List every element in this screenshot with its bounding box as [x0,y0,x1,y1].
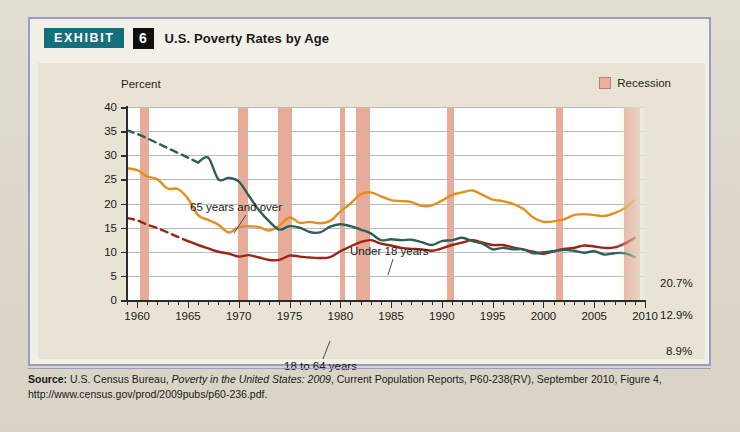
x-tick-mark-minor [269,302,270,305]
x-tick-mark-major [290,302,291,308]
x-tick-label: 1970 [226,310,252,322]
y-tick-mark [121,131,126,133]
y-tick-mark [121,179,126,181]
x-tick-mark-minor [584,302,585,305]
x-tick-mark-minor [371,302,372,305]
x-tick-label: 1965 [175,310,201,322]
exhibit-header: EXHIBIT 6 U.S. Poverty Rates by Age [30,19,709,57]
end-value-65-years-and-over: 8.9% [666,345,692,357]
end-value-under-18-years: 20.7% [660,277,693,289]
source-publication-title: Poverty in the United States: 2009 [172,373,331,385]
leader-line [323,341,330,359]
x-tick-mark-minor [168,302,169,305]
x-tick-mark-major [645,302,646,308]
y-tick-label: 5 [111,270,117,282]
x-tick-mark-minor [574,302,575,305]
x-tick-mark-major [442,302,443,308]
x-tick-mark-major [188,302,189,308]
series-label-65-years-and-over: 65 years and over [190,201,282,213]
x-tick-mark-minor [533,302,534,305]
x-tick-label: 1995 [480,310,506,322]
x-tick-mark-minor [218,302,219,305]
x-tick-mark-minor [564,302,565,305]
x-tick-mark-minor [361,302,362,305]
x-tick-mark-minor [513,302,514,305]
x-tick-label: 1980 [327,310,353,322]
x-tick-mark-major [391,302,392,308]
source-label: Source: [28,373,67,385]
x-tick-mark-minor [147,302,148,305]
y-axis-title: Percent [121,78,161,90]
end-value-18-to-64-years: 12.9% [660,309,693,321]
x-tick-mark-minor [482,302,483,305]
x-tick-mark-minor [381,302,382,305]
exhibit-badge: EXHIBIT [44,28,124,49]
y-tick-label: 35 [104,125,117,137]
exhibit-number: 6 [133,28,154,49]
x-tick-mark-minor [198,302,199,305]
x-axis-line [126,300,646,302]
x-tick-label: 1990 [429,310,455,322]
x-tick-mark-minor [401,302,402,305]
page-background: EXHIBIT 6 U.S. Poverty Rates by Age Perc… [0,0,740,432]
x-tick-label: 2005 [581,310,607,322]
y-tick-label: 30 [104,149,117,161]
x-tick-mark-minor [503,302,504,305]
legend-item-recession: Recession [617,77,671,89]
y-tick-mark [121,252,126,254]
chart-legend: Recession [599,77,671,89]
y-tick-label: 10 [104,246,117,258]
y-tick-label: 15 [104,222,117,234]
x-tick-mark-major [137,302,138,308]
x-tick-mark-minor [320,302,321,305]
recession-swatch-icon [599,77,611,89]
x-tick-label: 1960 [124,310,150,322]
x-tick-mark-minor [229,302,230,305]
source-note: Source: U.S. Census Bureau, Poverty in t… [28,372,712,402]
series-label-18-to-64-years: 18 to 64 years [284,360,357,372]
x-tick-mark-minor [422,302,423,305]
y-tick-label: 40 [104,101,117,113]
page-title: U.S. Poverty Rates by Age [165,31,330,46]
series-line-65-years-and-over [127,130,198,162]
x-tick-mark-minor [330,302,331,305]
x-tick-label: 1985 [378,310,404,322]
x-tick-mark-minor [350,302,351,305]
y-tick-label: 25 [104,173,117,185]
x-tick-mark-major [493,302,494,308]
x-tick-mark-major [340,302,341,308]
x-tick-mark-minor [249,302,250,305]
x-tick-mark-minor [208,302,209,305]
x-tick-mark-minor [462,302,463,305]
x-tick-mark-minor [452,302,453,305]
y-tick-mark [121,276,126,278]
x-tick-mark-minor [127,302,128,305]
y-axis-line [126,106,128,301]
x-tick-mark-major [543,302,544,308]
x-tick-mark-minor [411,302,412,305]
x-tick-mark-minor [615,302,616,305]
series-label-under-18-years: Under 18 years [350,245,429,257]
x-tick-mark-major [239,302,240,308]
series-line-18-to-64-years [127,218,188,241]
x-tick-mark-minor [259,302,260,305]
x-tick-mark-major [594,302,595,308]
x-tick-label: 2000 [531,310,557,322]
y-tick-mark [121,228,126,230]
y-tick-label: 20 [104,198,117,210]
y-tick-mark [121,204,126,206]
x-tick-mark-minor [310,302,311,305]
exhibit-frame: EXHIBIT 6 U.S. Poverty Rates by Age Perc… [28,17,711,366]
y-tick-mark [121,155,126,157]
x-tick-mark-minor [432,302,433,305]
source-divider [28,368,711,369]
y-tick-mark [121,300,126,302]
x-tick-mark-minor [279,302,280,305]
x-tick-label: 1975 [277,310,303,322]
x-tick-label: 2010 [632,310,658,322]
source-text-1: U.S. Census Bureau, [67,373,171,385]
x-tick-mark-minor [300,302,301,305]
x-tick-mark-minor [472,302,473,305]
x-tick-mark-minor [554,302,555,305]
x-tick-mark-minor [523,302,524,305]
